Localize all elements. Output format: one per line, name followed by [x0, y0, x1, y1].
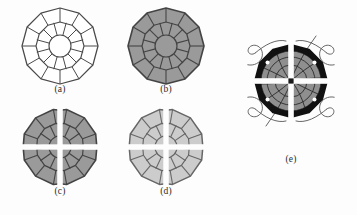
figure-canvas: (a)	[0, 0, 357, 215]
panel-c-caption: (c)	[14, 186, 106, 196]
panel-e-rotor	[252, 42, 330, 120]
white-cross	[19, 106, 101, 188]
panel-a: (a)	[14, 6, 106, 104]
hub-circle	[49, 35, 71, 57]
panel-d-graphic	[120, 106, 212, 188]
panel-e-graphic	[228, 14, 354, 156]
panel-c: (c)	[14, 106, 106, 206]
white-cross	[125, 106, 207, 188]
hub-circle	[155, 35, 177, 57]
panel-b-mesh	[128, 8, 204, 84]
panel-c-graphic	[14, 106, 106, 188]
panel-e: (e)	[228, 14, 354, 182]
panel-d: (d)	[120, 106, 212, 206]
panel-a-caption: (a)	[14, 84, 106, 94]
rim-dot	[313, 98, 317, 102]
panel-b: (b)	[120, 6, 212, 104]
rim-dot	[313, 61, 317, 65]
panel-c-mesh	[14, 106, 106, 188]
panel-a-mesh	[22, 8, 98, 84]
panel-d-caption: (d)	[120, 186, 212, 196]
panel-a-graphic	[14, 6, 106, 86]
panel-b-graphic	[120, 6, 212, 86]
panel-e-caption: (e)	[228, 154, 354, 164]
rim-dot	[266, 61, 270, 65]
hub-square	[288, 78, 293, 83]
rim-dot	[266, 98, 270, 102]
panel-b-caption: (b)	[120, 84, 212, 94]
panel-d-mesh	[120, 106, 212, 188]
